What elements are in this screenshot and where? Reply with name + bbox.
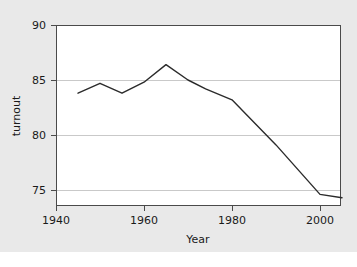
x-tick-label-1960: 1960 bbox=[130, 214, 158, 227]
screenshot-root: 90 85 80 75 1940 1960 1980 2000 Year tur… bbox=[0, 0, 357, 267]
turnout-line-chart: 90 85 80 75 1940 1960 1980 2000 Year tur… bbox=[0, 0, 357, 252]
x-tick-label-2000: 2000 bbox=[306, 214, 334, 227]
x-tick-label-1940: 1940 bbox=[42, 214, 70, 227]
x-tick-label-1980: 1980 bbox=[218, 214, 246, 227]
y-axis-tickmarks bbox=[51, 26, 56, 191]
y-axis-title: turnout bbox=[10, 95, 23, 136]
y-tick-label-90: 90 bbox=[32, 19, 46, 32]
y-tick-label-80: 80 bbox=[32, 129, 46, 142]
x-axis-title: Year bbox=[185, 233, 210, 246]
x-axis-tickmarks bbox=[57, 206, 321, 211]
y-axis-tick-labels: 90 85 80 75 bbox=[32, 19, 46, 197]
x-axis-tick-labels: 1940 1960 1980 2000 bbox=[42, 214, 334, 227]
plot-area-background bbox=[56, 25, 341, 206]
y-tick-label-75: 75 bbox=[32, 184, 46, 197]
y-tick-label-85: 85 bbox=[32, 74, 46, 87]
figure-panel: 90 85 80 75 1940 1960 1980 2000 Year tur… bbox=[0, 0, 357, 252]
